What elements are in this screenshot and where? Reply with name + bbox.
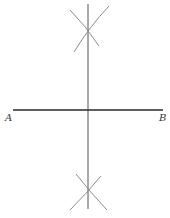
upper-arc-from-b	[74, 6, 109, 52]
lower-arc-from-b	[70, 176, 101, 210]
lower-arc-from-a	[76, 174, 107, 210]
upper-arc-from-a	[70, 10, 99, 46]
bisector-diagram: A B	[0, 0, 170, 218]
point-label-b: B	[158, 112, 166, 123]
point-label-a: A	[4, 112, 12, 123]
